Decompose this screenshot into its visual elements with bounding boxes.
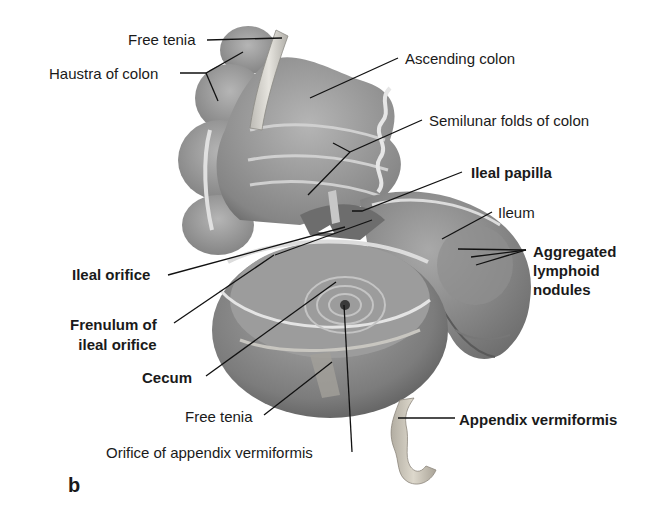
label-cecum: Cecum	[142, 369, 192, 386]
label-appendix-vermiformis: Appendix vermiformis	[459, 411, 617, 428]
label-aggregated-lymphoid-nodules: Aggregated lymphoid nodules	[533, 242, 616, 299]
label-haustra-of-colon: Haustra of colon	[49, 65, 158, 82]
label-ascending-colon: Ascending colon	[405, 50, 515, 67]
label-orifice-of-appendix: Orifice of appendix vermiformis	[106, 444, 313, 461]
label-aggregated-line-1: Aggregated	[533, 242, 616, 261]
label-aggregated-line-3: nodules	[533, 280, 616, 299]
label-free-tenia-bottom: Free tenia	[185, 408, 253, 425]
label-ileal-papilla: Ileal papilla	[471, 164, 552, 181]
label-ileal-orifice: Ileal orifice	[72, 266, 150, 283]
cecum-shape	[212, 242, 448, 418]
label-frenulum-of-ileal-orifice: Frenulum of ileal orifice	[70, 315, 157, 355]
appendix-vermiformis-shape	[391, 398, 436, 484]
label-frenulum-line-2: ileal orifice	[70, 335, 157, 355]
label-ileum: Ileum	[498, 204, 535, 221]
label-aggregated-line-2: lymphoid	[533, 261, 616, 280]
panel-letter: b	[68, 474, 80, 497]
label-free-tenia-top: Free tenia	[128, 31, 196, 48]
label-semilunar-folds: Semilunar folds of colon	[429, 112, 589, 129]
label-frenulum-line-1: Frenulum of	[70, 315, 157, 335]
